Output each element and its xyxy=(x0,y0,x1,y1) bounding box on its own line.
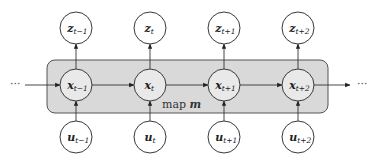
node-z: zt xyxy=(134,12,166,44)
node-x: xt+1 xyxy=(208,69,240,101)
node-u: ut−1 xyxy=(60,121,92,153)
ellipsis-right: ··· xyxy=(357,78,368,91)
node-x: xt xyxy=(134,69,166,101)
node-z: zt+2 xyxy=(282,12,314,44)
node-x: xt+2 xyxy=(282,69,314,101)
state-space-diagram: map m ··· ··· zt−1xt−1ut−1ztxtutzt+1xt+1… xyxy=(0,0,385,161)
node-u: ut+1 xyxy=(208,121,240,153)
node-x: xt−1 xyxy=(60,69,92,101)
node-u: ut+2 xyxy=(282,121,314,153)
map-label: map m xyxy=(162,98,201,111)
node-z: zt−1 xyxy=(60,12,92,44)
node-z: zt+1 xyxy=(208,12,240,44)
ellipsis-left: ··· xyxy=(10,78,21,91)
node-u: ut xyxy=(134,121,166,153)
